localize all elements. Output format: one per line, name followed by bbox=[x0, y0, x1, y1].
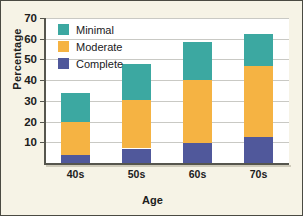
chart-legend: MinimalModerateComplete bbox=[58, 22, 123, 73]
bar-segment-moderate bbox=[244, 66, 273, 137]
x-axis-line bbox=[44, 163, 289, 165]
x-tick-label-50s: 50s bbox=[114, 168, 160, 180]
y-axis-line bbox=[44, 18, 46, 165]
y-tick-label: 20 bbox=[11, 116, 37, 128]
x-axis-shadow bbox=[46, 165, 291, 167]
bar-segment-minimal bbox=[122, 64, 151, 100]
bar-segment-complete bbox=[244, 137, 273, 163]
bar-segment-minimal bbox=[244, 34, 273, 66]
legend-label: Moderate bbox=[76, 41, 122, 53]
bar-segment-complete bbox=[122, 149, 151, 164]
legend-swatch-icon bbox=[58, 24, 69, 35]
legend-label: Complete bbox=[76, 58, 123, 70]
legend-item-complete: Complete bbox=[58, 56, 123, 71]
x-tick-label-70s: 70s bbox=[236, 168, 282, 180]
x-tick-label-60s: 60s bbox=[175, 168, 221, 180]
bar-70s bbox=[244, 18, 273, 163]
bar-segment-minimal bbox=[183, 42, 212, 80]
legend-swatch-icon bbox=[58, 58, 69, 69]
bar-segment-moderate bbox=[122, 100, 151, 149]
legend-item-moderate: Moderate bbox=[58, 39, 123, 54]
bar-segment-moderate bbox=[61, 122, 90, 155]
legend-label: Minimal bbox=[76, 24, 114, 36]
bar-segment-complete bbox=[61, 155, 90, 163]
bar-segment-moderate bbox=[183, 80, 212, 143]
legend-item-minimal: Minimal bbox=[58, 22, 123, 37]
bar-60s bbox=[183, 18, 212, 163]
bar-segment-minimal bbox=[61, 93, 90, 122]
y-axis-title: Percentage bbox=[11, 11, 23, 107]
x-axis-title: Age bbox=[1, 194, 303, 206]
chart-figure: 10203040506070 40s50s60s70s MinimalModer… bbox=[0, 0, 303, 216]
x-tick-label-40s: 40s bbox=[53, 168, 99, 180]
legend-swatch-icon bbox=[58, 41, 69, 52]
bar-segment-complete bbox=[183, 143, 212, 163]
bar-50s bbox=[122, 18, 151, 163]
y-tick-label: 10 bbox=[11, 136, 37, 148]
